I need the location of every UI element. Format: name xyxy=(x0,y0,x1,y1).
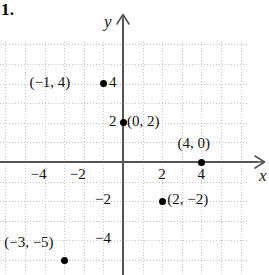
y-axis-arrow-icon xyxy=(115,13,131,29)
data-point-label: (−1, 4) xyxy=(29,74,70,91)
grid-line-horizontal xyxy=(0,221,249,222)
y-axis-label: y xyxy=(104,12,112,32)
grid-line-horizontal xyxy=(0,260,249,261)
grid-line-horizontal xyxy=(0,44,249,45)
y-tick-label: 2 xyxy=(109,113,117,130)
y-axis-line xyxy=(122,19,124,275)
data-point-dot xyxy=(120,119,127,126)
data-point-label: (−3, −5) xyxy=(4,234,53,251)
x-tick-label: 4 xyxy=(197,166,205,183)
y-tick-label: 4 xyxy=(109,74,117,91)
data-point-label: (0, 2) xyxy=(127,113,160,130)
grid-line-horizontal xyxy=(0,201,249,202)
x-tick-label: 2 xyxy=(158,166,166,183)
data-point-dot xyxy=(159,198,166,205)
data-point-label: (2, −2) xyxy=(167,191,208,208)
problem-number: 1. xyxy=(1,0,14,20)
coordinate-plane-figure: 1. y x −4−22442−2−4 (−1, 4)(0, 2)(4, 0)(… xyxy=(0,0,269,275)
y-tick-label: −4 xyxy=(95,230,111,247)
data-point-dot xyxy=(198,159,205,166)
x-tick-label: −2 xyxy=(70,166,86,183)
data-point-label: (4, 0) xyxy=(177,135,210,152)
grid-line-horizontal xyxy=(0,64,249,65)
data-point-dot xyxy=(61,257,68,264)
x-axis-label: x xyxy=(259,166,267,186)
x-tick-label: −4 xyxy=(31,166,47,183)
grid-line-horizontal xyxy=(0,142,249,143)
grid-line-horizontal xyxy=(0,103,249,104)
x-axis-line xyxy=(0,161,258,163)
y-tick-label: −2 xyxy=(95,191,111,208)
data-point-dot xyxy=(100,80,107,87)
